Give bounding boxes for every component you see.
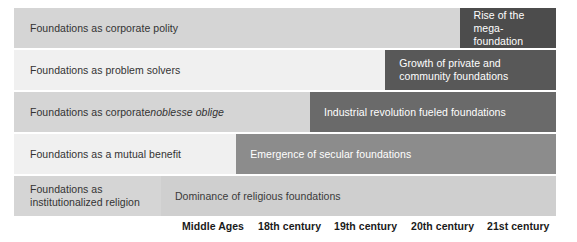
row-label-3: Foundations as corporate noblesse oblige [14,92,310,132]
chart-row: Foundations as corporate noblesse oblige… [14,92,556,132]
chart-row: Foundations as a mutual benefit Emergenc… [14,134,556,174]
era-block-3[interactable]: Industrial revolution fueled foundations [310,92,556,132]
axis-tick-5: 21st century [487,220,549,232]
chart-row: Foundations as institutionalized religio… [14,176,556,216]
era-block-2[interactable]: Growth of private and community foundati… [385,50,556,90]
row-label-emphasis: noblesse oblige [150,106,224,119]
era-block-1[interactable]: Rise of the mega-foundation [460,8,556,48]
x-axis: Middle Ages18th century19th century20th … [0,220,577,242]
chart-row: Foundations as corporate polity Rise of … [14,8,556,48]
row-label-4: Foundations as a mutual benefit [14,134,236,174]
chart-row: Foundations as problem solvers Growth of… [14,50,556,90]
row-label-1: Foundations as corporate polity [14,8,460,48]
axis-tick-2: 18th century [258,220,321,232]
axis-tick-1: Middle Ages [182,220,244,232]
axis-tick-4: 20th century [411,220,474,232]
timeline-chart: Foundations as corporate polity Rise of … [14,8,556,218]
row-label-5: Foundations as institutionalized religio… [14,176,161,216]
axis-tick-3: 19th century [334,220,397,232]
era-block-4[interactable]: Emergence of secular foundations [236,134,556,174]
era-block-5[interactable]: Dominance of religious foundations [161,176,556,216]
row-label-2: Foundations as problem solvers [14,50,385,90]
